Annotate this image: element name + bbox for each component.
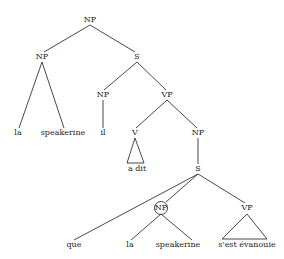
tree-edge [137, 62, 166, 90]
tree-edge [19, 62, 42, 128]
node-label: VP [241, 204, 252, 212]
syntax-tree-diagram: NPNPSlaspeakerineNPilVPVa ditNPSNPVPquel… [0, 0, 284, 259]
node-label: NP [84, 16, 96, 24]
tree-edge [161, 214, 192, 240]
terminal-word: speakerine [41, 129, 86, 137]
constituent-triangle [222, 214, 267, 239]
node-label: NP [155, 204, 167, 212]
tree-edge [44, 25, 90, 52]
terminal-word: s'est évanouie [218, 241, 275, 249]
terminal-word: la [126, 241, 133, 249]
tree-edge [104, 62, 137, 90]
tree-edge [136, 100, 167, 128]
terminal-word: speakerine [156, 241, 201, 249]
terminal-word: il [100, 129, 105, 137]
node-label: NP [36, 53, 48, 61]
tree-edge [198, 174, 245, 203]
tree-edge [42, 62, 64, 128]
terminal-word: que [66, 241, 81, 249]
terminal-word: la [14, 129, 21, 137]
tree-edge [167, 100, 197, 128]
node-label: V [132, 129, 138, 137]
node-label: VP [161, 91, 172, 99]
constituent-triangle [127, 138, 144, 163]
node-label: S [134, 53, 139, 61]
tree-edge [90, 25, 135, 52]
node-label: NP [97, 91, 109, 99]
node-label: NP [192, 129, 204, 137]
node-label: S [195, 165, 200, 173]
terminal-word: a dit [128, 165, 146, 173]
tree-edge [74, 174, 198, 240]
tree-edge [131, 214, 161, 240]
